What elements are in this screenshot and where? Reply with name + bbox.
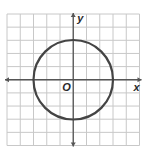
coordinate-plane: x y O — [0, 0, 147, 151]
origin-label: O — [62, 81, 71, 93]
x-axis-label: x — [133, 81, 141, 93]
y-axis-label: y — [76, 12, 84, 24]
axes — [5, 13, 142, 147]
